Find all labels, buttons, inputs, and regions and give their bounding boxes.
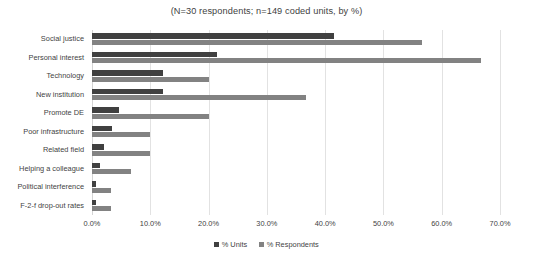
legend-label: % Respondents (267, 240, 319, 249)
legend-label: % Units (222, 240, 247, 249)
bar (92, 52, 217, 57)
y-axis-label: Political interference (0, 182, 84, 191)
bar (92, 132, 150, 137)
bar (92, 95, 306, 100)
bar-group (92, 160, 500, 179)
y-axis-label: New institution (0, 90, 84, 99)
plot-area (92, 30, 500, 215)
chart-legend: % Units% Respondents (0, 240, 533, 249)
gridline-700 (500, 30, 501, 215)
y-axis-label: Technology (0, 71, 84, 80)
bar-group (92, 67, 500, 86)
y-axis-category-labels: Social justicePersonal interestTechnolog… (0, 30, 88, 215)
x-axis-tick-label: 20.0% (198, 219, 219, 228)
legend-swatch-icon (214, 242, 219, 247)
x-axis-tick-label: 50.0% (373, 219, 394, 228)
bar (92, 188, 111, 193)
bar (92, 163, 100, 168)
y-axis-label: Related field (0, 145, 84, 154)
bar (92, 114, 209, 119)
x-axis-tick-label: 10.0% (140, 219, 161, 228)
bar (92, 40, 422, 45)
bar (92, 206, 111, 211)
bar-group (92, 49, 500, 68)
x-axis-tick-label: 70.0% (490, 219, 511, 228)
bar-group (92, 30, 500, 49)
x-axis-tick-label: 40.0% (315, 219, 336, 228)
bar (92, 181, 96, 186)
bar (92, 200, 96, 205)
bar (92, 151, 150, 156)
bar-group (92, 86, 500, 105)
bar (92, 33, 334, 38)
y-axis-label: Helping a colleague (0, 164, 84, 173)
x-axis-tick-label: 60.0% (431, 219, 452, 228)
bar (92, 70, 163, 75)
y-axis-label: Personal interest (0, 53, 84, 62)
bar-series-group (92, 30, 500, 215)
bar-group (92, 141, 500, 160)
bar (92, 107, 119, 112)
x-axis-tick-labels: 0.0%10.0%20.0%30.0%40.0%50.0%60.0%70.0% (0, 215, 533, 231)
y-axis-label: Poor infrastructure (0, 127, 84, 136)
legend-item[interactable]: % Units (214, 240, 247, 249)
bar-chart: (N=30 respondents; n=149 coded units, by… (0, 0, 533, 263)
bar (92, 126, 112, 131)
y-axis-label: Social justice (0, 34, 84, 43)
bar-group (92, 178, 500, 197)
bar (92, 144, 104, 149)
bar (92, 89, 163, 94)
x-axis-tick-label: 30.0% (256, 219, 277, 228)
legend-item[interactable]: % Respondents (259, 240, 319, 249)
bar-group (92, 104, 500, 123)
x-axis-tick-label: 0.0% (84, 219, 101, 228)
bar-group (92, 123, 500, 142)
bar (92, 169, 131, 174)
y-axis-label: F-2-f drop-out rates (0, 201, 84, 210)
legend-swatch-icon (259, 242, 264, 247)
y-axis-label: Promote DE (0, 108, 84, 117)
chart-title: (N=30 respondents; n=149 coded units, by… (0, 6, 533, 16)
bar-group (92, 197, 500, 216)
bar (92, 58, 481, 63)
bar (92, 77, 209, 82)
